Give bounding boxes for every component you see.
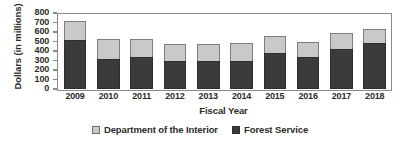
bar-segment-forest-service bbox=[330, 49, 353, 89]
dark-gray-swatch bbox=[232, 126, 240, 134]
x-tick-label: 2018 bbox=[358, 91, 391, 101]
x-tick-label: 2009 bbox=[58, 91, 91, 101]
bar-segment-forest-service bbox=[64, 40, 87, 89]
bar-slot bbox=[125, 13, 158, 89]
bar-segment-interior bbox=[197, 44, 220, 62]
bar-segment-interior bbox=[330, 33, 353, 48]
bar-segment-interior bbox=[297, 42, 320, 58]
bar-segment-interior bbox=[164, 44, 187, 61]
y-tick-label: 300 bbox=[35, 55, 49, 65]
bar-slot bbox=[58, 13, 91, 89]
y-tick-label: 700 bbox=[35, 17, 49, 27]
bar-slot bbox=[291, 13, 324, 89]
stacked-bar bbox=[264, 36, 287, 89]
bar-segment-interior bbox=[64, 21, 87, 40]
bar-segment-forest-service bbox=[363, 43, 386, 89]
bar-slot bbox=[325, 13, 358, 89]
bar-segment-forest-service bbox=[130, 57, 153, 89]
bar-slot bbox=[225, 13, 258, 89]
y-tick-label: 400 bbox=[35, 45, 49, 55]
legend-item-label: Forest Service bbox=[244, 124, 308, 135]
bar-segment-forest-service bbox=[230, 61, 253, 89]
bar-slot bbox=[258, 13, 291, 89]
bar-group bbox=[58, 13, 391, 89]
legend-item-label: Department of the Interior bbox=[104, 124, 218, 135]
stacked-bar bbox=[363, 29, 386, 89]
stacked-bar bbox=[97, 39, 120, 89]
y-tick-label: 100 bbox=[35, 74, 49, 84]
x-tick-label: 2012 bbox=[158, 91, 191, 101]
bar-segment-interior bbox=[130, 39, 153, 57]
stacked-bar bbox=[197, 44, 220, 89]
y-axis-ticks: 0100200300400500600700800 bbox=[0, 13, 57, 89]
y-tick-label: 500 bbox=[35, 36, 49, 46]
x-tick-label: 2016 bbox=[291, 91, 324, 101]
chart-legend: Department of the InteriorForest Service bbox=[0, 124, 400, 135]
bar-segment-interior bbox=[363, 29, 386, 43]
bar-slot bbox=[192, 13, 225, 89]
stacked-bar-chart: Dollars (in millions) 010020030040050060… bbox=[0, 0, 400, 147]
legend-item[interactable]: Department of the Interior bbox=[92, 124, 218, 135]
y-tick-label: 600 bbox=[35, 26, 49, 36]
y-tick-label: 800 bbox=[35, 7, 49, 17]
x-tick-label: 2017 bbox=[325, 91, 358, 101]
bar-segment-interior bbox=[97, 39, 120, 59]
bar-segment-forest-service bbox=[264, 53, 287, 89]
y-tick-label: 200 bbox=[35, 64, 49, 74]
stacked-bar bbox=[297, 42, 320, 89]
bar-segment-forest-service bbox=[297, 57, 320, 89]
bar-segment-forest-service bbox=[164, 61, 187, 90]
x-tick-label: 2010 bbox=[92, 91, 125, 101]
bar-segment-interior bbox=[264, 36, 287, 54]
legend-item[interactable]: Forest Service bbox=[232, 124, 308, 135]
x-tick-label: 2013 bbox=[192, 91, 225, 101]
stacked-bar bbox=[330, 33, 353, 89]
stacked-bar bbox=[164, 44, 187, 89]
bar-slot bbox=[358, 13, 391, 89]
stacked-bar bbox=[130, 39, 153, 89]
light-gray-swatch bbox=[92, 126, 100, 134]
stacked-bar bbox=[64, 21, 87, 89]
y-tick-label: 0 bbox=[44, 83, 49, 93]
bar-segment-forest-service bbox=[97, 59, 120, 89]
x-tick-label: 2014 bbox=[225, 91, 258, 101]
x-axis-title: Fiscal Year bbox=[57, 105, 390, 116]
bar-slot bbox=[92, 13, 125, 89]
bar-segment-forest-service bbox=[197, 61, 220, 89]
bar-slot bbox=[158, 13, 191, 89]
x-tick-label: 2011 bbox=[125, 91, 158, 101]
x-tick-label: 2015 bbox=[258, 91, 291, 101]
stacked-bar bbox=[230, 43, 253, 89]
bar-segment-interior bbox=[230, 43, 253, 61]
x-axis-ticks: 2009201020112012201320142015201620172018 bbox=[58, 91, 391, 101]
